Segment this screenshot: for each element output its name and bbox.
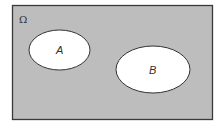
venn-diagram: Ω A B: [0, 0, 223, 129]
set-a-label: A: [55, 44, 63, 56]
universe-label: Ω: [19, 14, 27, 25]
set-b-label: B: [149, 64, 156, 76]
